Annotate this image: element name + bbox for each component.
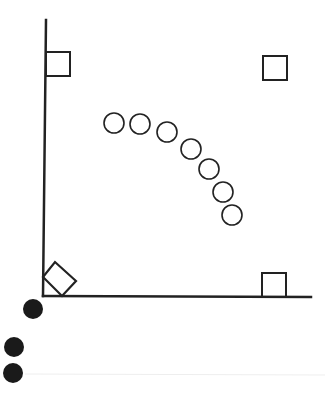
filled-circle-2 xyxy=(4,337,24,357)
open-circle-1 xyxy=(104,113,124,133)
filled-circle-3 xyxy=(3,363,23,383)
square-markers xyxy=(46,52,287,297)
open-circle-arc xyxy=(104,113,242,225)
open-circle-6 xyxy=(213,182,233,202)
open-circle-5 xyxy=(199,159,219,179)
faint-baseline xyxy=(25,374,325,375)
square-bottom-right xyxy=(262,273,286,297)
square-top-right xyxy=(263,56,287,80)
open-circle-7 xyxy=(222,205,242,225)
diagram-svg xyxy=(0,0,325,400)
open-circle-4 xyxy=(181,139,201,159)
square-top-left xyxy=(46,52,70,76)
diamond-marker xyxy=(43,262,76,296)
diagram-canvas xyxy=(0,0,325,400)
open-circle-3 xyxy=(157,122,177,142)
filled-circle-1 xyxy=(23,299,43,319)
filled-circle-markers xyxy=(3,299,43,383)
open-circle-2 xyxy=(130,114,150,134)
